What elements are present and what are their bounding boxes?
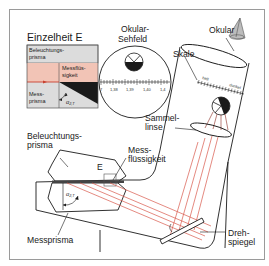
scale-tick-label: 1,4 [160,87,166,92]
inset-bottom-label-1: Mess- [29,91,44,97]
tube-indicator [212,94,233,115]
detail-inset-title: Einzelheit E [27,31,82,43]
detail-inset: Einzelheit E Beleuchtungs- prisma Messfl… [27,31,98,108]
inset-top-label-1: Beleuchtungs- [29,47,64,53]
tube-scale: hell dunkel [197,75,244,95]
scale-tick-label: 1,40 [143,87,152,92]
messprisma-label: Messprisma [27,235,74,245]
drehspiegel-label-2: spiegel [228,237,255,247]
dunkel-label: dunkel [229,82,242,90]
measuring-fluid-layer [52,181,124,184]
scale-tick-label: 1,39 [126,87,135,92]
inset-top-label-2: prisma [29,54,46,60]
angle-label: α2,T [66,191,75,198]
messfluessigkeit-label-2: flüssigkeit [128,154,166,164]
skale-label: Skale [173,49,195,59]
inset-bottom-label-2: prisma [29,98,46,104]
inset-fluid-label-2: sigkeit [62,72,78,78]
eyepiece-title-2: Sehfeld [118,34,147,44]
eyepiece-scale: 7 1,38 1,39 1,40 1,4 [100,79,170,92]
scale-tick-label: 1,38 [110,87,119,92]
beleuchtungsprisma-label-2: prisma [27,140,53,150]
inset-fluid-label-1: Messflüs- [62,65,86,71]
scale-tick-label: 7 [100,87,103,92]
rotating-mirror [160,218,204,244]
sammellinse-label-2: linse [145,122,163,132]
eyepiece-tube: hell dunkel [160,40,249,248]
refractometer-diagram: Einzelheit E Beleuchtungs- prisma Messfl… [0,0,269,266]
boundary-indicator [125,53,143,71]
eyepiece-field-of-view: Okular- Sehfeld [99,24,171,118]
eyepiece-title-1: Okular- [121,24,149,34]
detail-marker-e: E [97,162,103,172]
okular-label: Okular [209,25,234,35]
illumination-prism [48,150,126,181]
hell-label: hell [202,75,209,82]
